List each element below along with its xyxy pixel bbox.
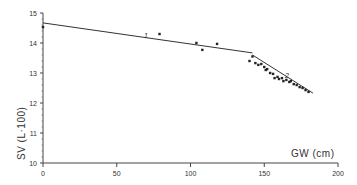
y-tick-label: 14 [29, 40, 37, 47]
x-tick-label: 100 [185, 170, 197, 177]
data-point [281, 77, 283, 79]
y-ticks: 101112131415 [29, 10, 43, 167]
data-point [269, 72, 271, 74]
regression-lines [43, 23, 313, 93]
regression-line [252, 55, 312, 93]
y-tick-label: 15 [29, 10, 37, 17]
data-point [266, 68, 268, 70]
y-tick-label: 11 [30, 130, 37, 137]
data-point [285, 79, 287, 81]
data-point [263, 66, 265, 68]
data-point [251, 55, 253, 57]
data-point [216, 43, 218, 45]
y-axis-title: SV (L·100) [16, 107, 27, 160]
data-point [278, 78, 280, 80]
data-point [296, 84, 298, 86]
y-tick-label: 13 [29, 70, 37, 77]
data-point [293, 83, 295, 85]
data-point [42, 26, 44, 28]
data-point [298, 86, 300, 88]
data-point [290, 80, 292, 82]
data-point [257, 64, 259, 66]
x-axis-title: GW (cm) [291, 148, 335, 159]
data-points [42, 26, 310, 93]
x-tick-label: 0 [41, 170, 45, 177]
scatter-chart: 101112131415 050100150200 1 2 GW (cm) SV… [0, 0, 357, 185]
x-tick-label: 200 [332, 170, 344, 177]
x-tick-label: 150 [258, 170, 270, 177]
data-point [254, 62, 256, 64]
data-point [273, 77, 275, 79]
data-point [307, 91, 309, 93]
data-point [282, 80, 284, 82]
y-tick-label: 10 [29, 160, 37, 167]
data-point [248, 60, 250, 62]
data-point [195, 42, 197, 44]
y-tick-label: 12 [29, 100, 37, 107]
x-tick-label: 50 [113, 170, 121, 177]
data-point [158, 33, 160, 35]
x-ticks: 050100150200 [41, 163, 344, 177]
annotation-2: 2 [284, 72, 289, 79]
data-point [260, 63, 262, 65]
data-point [304, 89, 306, 91]
data-point [301, 87, 303, 89]
annotation-1: 1 [144, 32, 148, 39]
data-point [272, 73, 274, 75]
data-point [276, 76, 278, 78]
data-point [201, 49, 203, 51]
